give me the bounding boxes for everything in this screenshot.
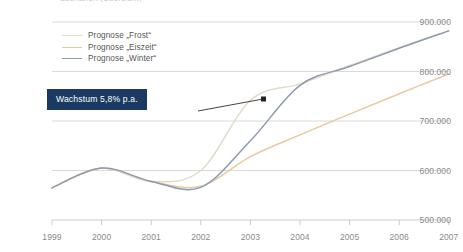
x-tick-1999: 1999	[30, 232, 74, 242]
legend-item-frost[interactable]: Prognose „Frost“	[62, 30, 157, 42]
x-tick-2002: 2002	[179, 232, 223, 242]
x-tick-2005: 2005	[328, 232, 372, 242]
growth-callout-badge: Wachstum 5,8% p.a.	[47, 89, 147, 110]
x-tick-2006: 2006	[377, 232, 421, 242]
x-axis	[52, 220, 449, 225]
x-tick-2001: 2001	[129, 232, 173, 242]
legend-swatch-winter-icon	[62, 58, 82, 59]
legend-label-frost: Prognose „Frost“	[88, 31, 151, 40]
y-tick-600000: 600.000	[403, 166, 451, 176]
y-tick-700000: 700.000	[403, 116, 451, 126]
legend-label-eiszeit: Prognose „Eiszeit“	[88, 43, 157, 52]
chart-legend: Prognose „Frost“ Prognose „Eiszeit“ Prog…	[62, 30, 157, 65]
callout-arrow	[198, 97, 266, 112]
y-tick-500000: 500.000	[403, 215, 451, 225]
legend-item-winter[interactable]: Prognose „Winter“	[62, 53, 157, 65]
x-tick-2004: 2004	[278, 232, 322, 242]
legend-swatch-frost-icon	[62, 35, 82, 36]
x-tick-2000: 2000	[80, 232, 124, 242]
legend-item-eiszeit[interactable]: Prognose „Eiszeit“	[62, 42, 157, 54]
legend-label-winter: Prognose „Winter“	[88, 54, 156, 63]
x-tick-2003: 2003	[228, 232, 272, 242]
x-tick-2007: 2007	[427, 232, 463, 242]
y-tick-900000: 900.000	[403, 17, 451, 27]
legend-swatch-eiszeit-icon	[62, 47, 82, 48]
y-tick-800000: 800.000	[403, 67, 451, 77]
